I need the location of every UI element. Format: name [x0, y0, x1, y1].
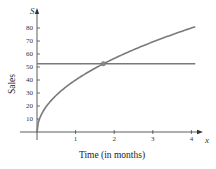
y-tick-label: 80: [26, 24, 34, 32]
axes: [20, 8, 203, 140]
y-tick-label: 40: [26, 76, 34, 84]
chart: 12341020304050607080 Sales Time (in mont…: [0, 0, 216, 169]
x-axis-arrow-icon: [197, 130, 203, 134]
x-tick-label: 3: [151, 135, 155, 143]
y-axis-arrow-icon: [35, 8, 39, 14]
ticks: 12341020304050607080: [26, 24, 194, 143]
x-tick-label: 2: [112, 135, 116, 143]
x-tick-label: 4: [190, 135, 194, 143]
y-axis-variable: S: [30, 6, 35, 16]
y-tick-label: 10: [26, 115, 34, 123]
x-axis-variable: x: [204, 135, 209, 145]
y-tick-label: 70: [26, 37, 34, 45]
y-tick-label: 20: [26, 102, 34, 110]
x-tick-label: 1: [74, 135, 78, 143]
y-tick-label: 30: [26, 89, 34, 97]
y-tick-label: 60: [26, 50, 34, 58]
x-axis-title: Time (in months): [79, 150, 145, 161]
sales-curve: [37, 27, 195, 132]
intersection-point: [101, 62, 105, 66]
y-axis-title: Sales: [7, 74, 17, 94]
series: [37, 27, 195, 132]
y-tick-label: 50: [26, 63, 34, 71]
